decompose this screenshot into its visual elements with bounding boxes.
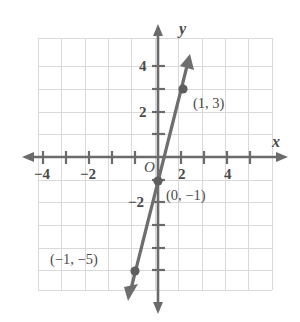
data-point-1-3: [178, 84, 187, 93]
point-label-0-neg1: (0, −1): [166, 188, 206, 203]
y-tick-label-neg2: −2: [128, 195, 144, 210]
x-tick-label-2: 2: [178, 167, 186, 182]
x-axis-label: x: [272, 134, 280, 150]
x-tick-label-neg2: −2: [80, 167, 96, 182]
coordinate-plane-figure: x y −4 −2 2 4 4 2 −2 O (1, 3) (0, −1) (−…: [0, 0, 300, 322]
y-tick-label-4: 4: [139, 59, 147, 74]
point-label-neg1-neg5: (−1, −5): [50, 252, 98, 267]
data-point-neg1-neg5: [130, 266, 139, 275]
x-tick-label-4: 4: [224, 167, 232, 182]
y-axis-label: y: [179, 21, 186, 37]
origin-label: O: [144, 160, 155, 175]
data-point-0-neg1: [153, 176, 162, 185]
x-tick-label-neg4: −4: [34, 167, 50, 182]
y-tick-label-2: 2: [139, 105, 147, 120]
point-label-1-3: (1, 3): [193, 96, 224, 111]
